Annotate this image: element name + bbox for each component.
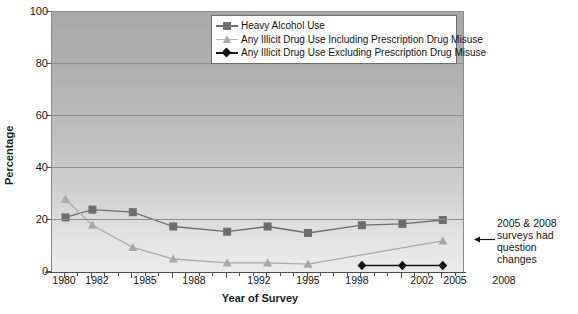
y-axis-title: Percentage bbox=[0, 95, 18, 215]
chart-container: Percentage 100 80 60 40 20 0 1980 1982 1… bbox=[0, 0, 578, 314]
x-axis-title: Year of Survey bbox=[150, 292, 370, 304]
y-tick-label: 0 bbox=[22, 265, 48, 277]
data-point bbox=[358, 221, 366, 229]
x-tick-label: 1998 bbox=[345, 274, 368, 286]
x-tick-label: 2008 bbox=[492, 274, 515, 286]
data-point bbox=[223, 228, 231, 236]
triangle-marker-icon bbox=[216, 33, 238, 45]
x-axis-line bbox=[45, 272, 466, 273]
annotation-line-1: 2005 & 2008 bbox=[497, 217, 577, 229]
data-point bbox=[438, 236, 447, 244]
data-point bbox=[398, 261, 407, 271]
data-point bbox=[61, 195, 70, 203]
legend-item-illicit-including: Any Illicit Drug Use Including Prescript… bbox=[216, 33, 452, 47]
gridline-20 bbox=[52, 219, 463, 220]
y-axis-tick bbox=[46, 271, 51, 272]
data-point bbox=[358, 261, 367, 271]
data-point bbox=[438, 261, 447, 271]
annotation-line-4: changes bbox=[497, 253, 577, 265]
legend-label: Any Illicit Drug Use Excluding Prescript… bbox=[241, 47, 486, 58]
y-tick-label: 20 bbox=[22, 213, 48, 225]
data-point bbox=[398, 220, 406, 228]
annotation-arrow-icon bbox=[474, 235, 496, 244]
gridline-60 bbox=[52, 115, 463, 116]
y-axis-tick bbox=[46, 115, 51, 116]
y-axis-tick bbox=[46, 11, 51, 12]
legend: Heavy Alcohol Use Any Illicit Drug Use I… bbox=[211, 15, 457, 64]
legend-item-illicit-excluding: Any Illicit Drug Use Excluding Prescript… bbox=[216, 46, 452, 60]
y-axis-tick-labels: 100 80 60 40 20 0 bbox=[18, 0, 48, 314]
y-axis-tick bbox=[46, 63, 51, 64]
annotation-line-2: surveys had bbox=[497, 229, 577, 241]
x-tick-label: 1992 bbox=[247, 274, 270, 286]
legend-item-heavy-alcohol-use: Heavy Alcohol Use bbox=[216, 19, 452, 33]
y-tick-label: 40 bbox=[22, 161, 48, 173]
data-point bbox=[264, 223, 272, 231]
diamond-marker-icon bbox=[216, 47, 238, 59]
legend-label: Heavy Alcohol Use bbox=[241, 20, 325, 31]
data-point bbox=[61, 213, 69, 221]
y-tick-label: 100 bbox=[22, 5, 48, 17]
y-axis-tick bbox=[46, 167, 51, 168]
gridline-40 bbox=[52, 167, 463, 168]
data-point bbox=[128, 243, 137, 251]
square-marker-icon bbox=[216, 20, 238, 32]
data-point bbox=[129, 208, 137, 216]
y-axis-tick bbox=[46, 219, 51, 220]
data-point bbox=[439, 216, 447, 224]
annotation-line-3: question bbox=[497, 241, 577, 253]
data-point bbox=[169, 223, 177, 231]
data-point bbox=[304, 229, 312, 237]
data-point bbox=[88, 206, 96, 214]
y-tick-label: 60 bbox=[22, 109, 48, 121]
y-tick-label: 80 bbox=[22, 57, 48, 69]
annotation-text: 2005 & 2008 surveys had question changes bbox=[497, 217, 577, 265]
x-tick-label: 1995 bbox=[296, 274, 319, 286]
legend-label: Any Illicit Drug Use Including Prescript… bbox=[241, 34, 483, 45]
